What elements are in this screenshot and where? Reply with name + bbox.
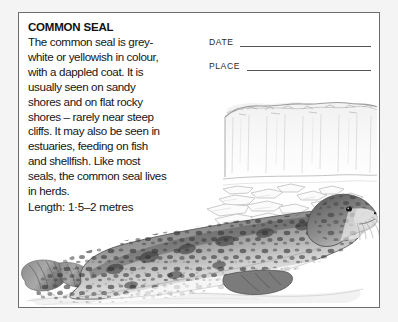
description-line: with a dappled coat. It is bbox=[28, 65, 204, 80]
fore-flipper bbox=[223, 270, 293, 294]
date-write-line[interactable] bbox=[240, 46, 371, 47]
description-line: estuaries, feeding on fish bbox=[28, 139, 204, 154]
description-line: white or yellowish in colour, bbox=[28, 50, 204, 65]
record-fields: DATE PLACE bbox=[209, 37, 371, 85]
place-label: PLACE bbox=[209, 61, 240, 71]
description-line: seals, the common seal lives bbox=[28, 169, 204, 184]
ice-floes bbox=[207, 184, 371, 235]
description-line: The common seal is grey- bbox=[28, 35, 204, 50]
length-label: Length: 1·5–2 metres bbox=[28, 200, 204, 215]
description-line: in herds. bbox=[28, 184, 204, 199]
description-line: cliffs. It may also be seen in bbox=[28, 124, 204, 139]
ice-floe-shading bbox=[213, 195, 315, 232]
description-line: shores – rarely near steep bbox=[28, 110, 204, 125]
page-title: COMMON SEAL bbox=[28, 20, 204, 34]
description-line: shores and on flat rocky bbox=[28, 95, 204, 110]
place-field-row[interactable]: PLACE bbox=[209, 61, 371, 85]
ice-cliff bbox=[223, 102, 377, 185]
description-line: usually seen on sandy bbox=[28, 80, 204, 95]
place-write-line[interactable] bbox=[247, 70, 371, 71]
hind-flippers bbox=[22, 260, 89, 291]
date-field-row[interactable]: DATE bbox=[209, 37, 371, 61]
description-column: COMMON SEAL The common seal is grey- whi… bbox=[28, 20, 204, 215]
seal-whiskers bbox=[357, 217, 379, 240]
description-line: and shellfish. Like most bbox=[28, 154, 204, 169]
species-card: COMMON SEAL The common seal is grey- whi… bbox=[18, 12, 380, 308]
seal-eye bbox=[346, 206, 352, 211]
date-label: DATE bbox=[209, 37, 233, 47]
